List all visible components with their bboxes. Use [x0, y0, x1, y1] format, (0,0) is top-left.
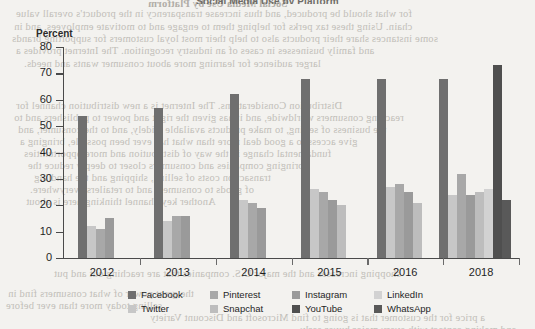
legend-item-pinterest[interactable]: Pinterest — [210, 289, 292, 300]
bar-whatsapp-2018 — [502, 200, 511, 258]
bar-instagram-2014 — [257, 208, 266, 258]
y-axis-tick — [56, 73, 63, 74]
bar-pinterest-2014 — [248, 203, 257, 258]
legend-label: Snapchat — [223, 303, 263, 314]
legend-label: Pinterest — [223, 289, 261, 300]
bar-snapchat-2016 — [413, 203, 422, 258]
bar-facebook-2013 — [154, 108, 163, 258]
legend-item-whatsapp[interactable]: WhatsApp — [374, 303, 456, 314]
plot-area: 01020304050607080 2012201320142015201620… — [64, 47, 519, 258]
x-axis-group-separator — [292, 258, 293, 265]
legend-swatch-icon — [374, 305, 382, 313]
y-axis-tick — [56, 47, 63, 48]
bar-pinterest-2018 — [457, 174, 466, 258]
y-axis-tick-label: 10 — [30, 225, 52, 237]
y-axis-tick — [56, 258, 63, 259]
legend-item-youtube[interactable]: YouTube — [292, 303, 374, 314]
legend-swatch-icon — [374, 291, 382, 299]
legend-item-instagram[interactable]: Instagram — [292, 289, 374, 300]
bar-group-2013 — [154, 47, 190, 258]
y-axis-tick — [56, 232, 63, 233]
y-axis-tick-label: 20 — [30, 198, 52, 210]
y-axis-tick — [56, 126, 63, 127]
legend-swatch-icon — [210, 305, 218, 313]
bar-twitter-2016 — [386, 187, 395, 258]
y-axis-tick — [56, 153, 63, 154]
bar-twitter-2014 — [239, 200, 248, 258]
y-axis-title: Percent — [36, 28, 73, 39]
bar-twitter-2013 — [163, 221, 172, 258]
legend-item-facebook[interactable]: Facebook — [128, 289, 210, 300]
bar-group-2018 — [439, 47, 511, 258]
legend-label: Instagram — [305, 289, 347, 300]
bar-snapchat-2018 — [475, 192, 484, 258]
bar-pinterest-2015 — [319, 192, 328, 258]
y-axis-tick-label: 70 — [30, 66, 52, 78]
bar-facebook-2012 — [78, 116, 87, 258]
legend-label: Twitter — [141, 303, 169, 314]
bar-group-2012 — [78, 47, 114, 258]
bar-linkedin-2018 — [484, 189, 493, 258]
x-axis-label-2016: 2016 — [375, 266, 435, 278]
chart-title: Social Media Use by Platform — [0, 0, 535, 4]
x-axis-group-separator — [216, 258, 217, 265]
y-axis-tick-label: 80 — [30, 40, 52, 52]
x-axis-group-separator — [519, 258, 520, 265]
x-axis-group-separator — [140, 258, 141, 265]
bar-instagram-2012 — [105, 218, 114, 258]
legend-swatch-icon — [292, 291, 300, 299]
legend-swatch-icon — [128, 305, 136, 313]
chart-legend: FacebookPinterestInstagramLinkedIn Twitt… — [128, 289, 458, 317]
y-axis-tick-label: 40 — [30, 146, 52, 158]
bar-twitter-2015 — [310, 189, 319, 258]
legend-row-1: FacebookPinterestInstagramLinkedIn — [128, 289, 458, 303]
legend-label: LinkedIn — [387, 289, 423, 300]
bar-instagram-2018 — [466, 195, 475, 258]
bar-snapchat-2015 — [337, 205, 346, 258]
y-axis-line — [63, 47, 64, 259]
bar-group-2015 — [301, 47, 346, 258]
bar-instagram-2015 — [328, 200, 337, 258]
chart-figure: Social Media Use by Platform Percent 010… — [0, 0, 535, 329]
legend-swatch-icon — [128, 291, 136, 299]
x-axis-label-2014: 2014 — [224, 266, 284, 278]
bar-facebook-2015 — [301, 79, 310, 258]
bar-pinterest-2016 — [395, 184, 404, 258]
x-axis-label-2018: 2018 — [451, 266, 511, 278]
bar-pinterest-2013 — [172, 216, 181, 258]
bar-facebook-2014 — [230, 94, 239, 258]
y-axis-tick — [56, 205, 63, 206]
x-axis-label-2012: 2012 — [72, 266, 132, 278]
bar-facebook-2018 — [439, 79, 448, 258]
y-axis-tick-label: 50 — [30, 119, 52, 131]
legend-label: Facebook — [141, 289, 183, 300]
legend-item-linkedin[interactable]: LinkedIn — [374, 289, 456, 300]
legend-swatch-icon — [210, 291, 218, 299]
x-axis-group-separator — [367, 258, 368, 265]
legend-swatch-icon — [292, 305, 300, 313]
bar-group-2014 — [230, 47, 266, 258]
legend-row-2: TwitterSnapchatYouTubeWhatsApp — [128, 303, 458, 317]
y-axis-tick — [56, 179, 63, 180]
legend-item-twitter[interactable]: Twitter — [128, 303, 210, 314]
bar-instagram-2016 — [404, 192, 413, 258]
y-axis-tick-label: 30 — [30, 172, 52, 184]
y-axis-tick — [56, 100, 63, 101]
x-axis-label-2015: 2015 — [299, 266, 359, 278]
legend-label: YouTube — [305, 303, 342, 314]
legend-item-snapchat[interactable]: Snapchat — [210, 303, 292, 314]
x-axis-group-separator — [443, 258, 444, 265]
x-axis-label-2013: 2013 — [148, 266, 208, 278]
bar-twitter-2012 — [87, 226, 96, 258]
legend-label: WhatsApp — [387, 303, 431, 314]
bar-facebook-2016 — [377, 79, 386, 258]
bar-group-2016 — [377, 47, 422, 258]
y-axis-tick-label: 0 — [30, 251, 52, 263]
y-axis-tick-label: 60 — [30, 93, 52, 105]
bar-youtube-2018 — [493, 65, 502, 258]
bar-twitter-2018 — [448, 195, 457, 258]
bar-instagram-2013 — [181, 216, 190, 258]
bar-pinterest-2012 — [96, 229, 105, 258]
